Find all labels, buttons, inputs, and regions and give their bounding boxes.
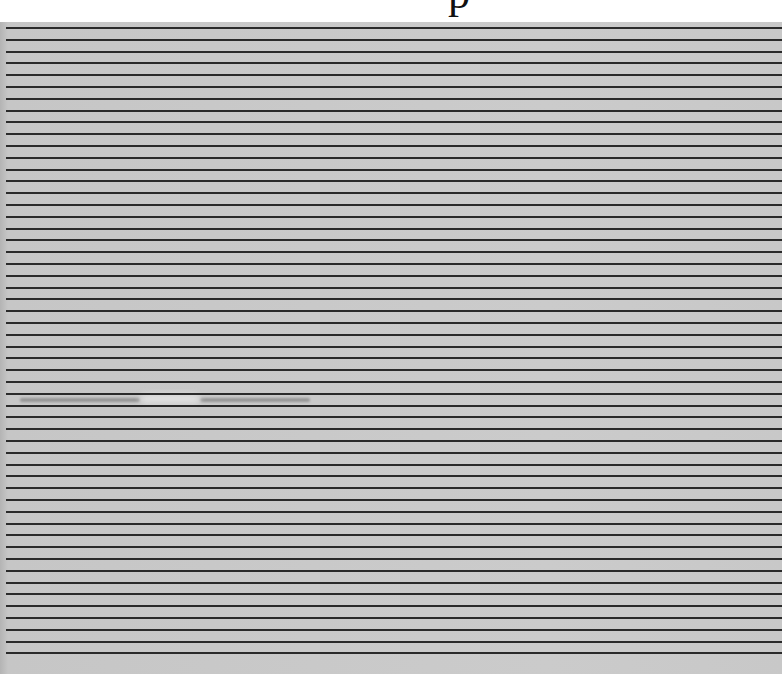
ruled-line <box>6 322 782 324</box>
ruled-line <box>6 98 782 100</box>
ruled-line <box>6 145 782 147</box>
light-glare <box>140 394 200 404</box>
ruled-line <box>6 416 782 418</box>
ruled-line <box>6 558 782 560</box>
ruled-line <box>6 275 782 277</box>
ruled-line <box>6 51 782 53</box>
ruled-line <box>6 452 782 454</box>
ruled-line <box>6 346 782 348</box>
ruled-line <box>6 263 782 265</box>
ruled-line <box>6 298 782 300</box>
ruled-line <box>6 334 782 336</box>
ruled-line <box>6 204 782 206</box>
ruled-line <box>6 546 782 548</box>
ruled-line <box>6 369 782 371</box>
ruled-line <box>6 570 782 572</box>
ruled-line <box>6 251 782 253</box>
ruled-line <box>6 393 782 395</box>
ruled-line <box>6 617 782 619</box>
ruled-line <box>6 192 782 194</box>
ruled-line <box>6 641 782 643</box>
ruled-line <box>6 593 782 595</box>
ruled-line <box>6 357 782 359</box>
ruled-line <box>6 534 782 536</box>
ruled-line <box>6 228 782 230</box>
ruled-line <box>6 523 782 525</box>
ruled-line <box>6 62 782 64</box>
ruled-line <box>6 157 782 159</box>
ruled-line <box>6 605 782 607</box>
ruled-line <box>6 440 782 442</box>
ruled-line <box>6 629 782 631</box>
ink-smudge <box>20 398 140 402</box>
ruled-line <box>6 169 782 171</box>
ruled-line <box>6 121 782 123</box>
ruled-line <box>6 216 782 218</box>
ruled-line <box>6 475 782 477</box>
ruled-line <box>6 405 782 407</box>
ruled-line <box>6 582 782 584</box>
ruled-line <box>6 239 782 241</box>
ruled-line <box>6 464 782 466</box>
ruled-line <box>6 381 782 383</box>
ruled-line <box>6 39 782 41</box>
cropped-title-glyph: p <box>448 0 470 16</box>
ruled-line <box>6 499 782 501</box>
ruled-line <box>6 287 782 289</box>
lined-paper <box>0 22 782 674</box>
ink-smudge <box>200 398 310 402</box>
ruled-line <box>6 487 782 489</box>
ruled-line <box>6 511 782 513</box>
ruled-line <box>6 110 782 112</box>
ruled-line <box>6 27 782 29</box>
ruled-line <box>6 180 782 182</box>
ruled-line <box>6 652 782 654</box>
ruled-line <box>6 133 782 135</box>
page-header-area: p <box>0 0 782 22</box>
ruled-line <box>6 428 782 430</box>
ruled-line <box>6 86 782 88</box>
ruled-line <box>6 74 782 76</box>
ruled-line <box>6 310 782 312</box>
